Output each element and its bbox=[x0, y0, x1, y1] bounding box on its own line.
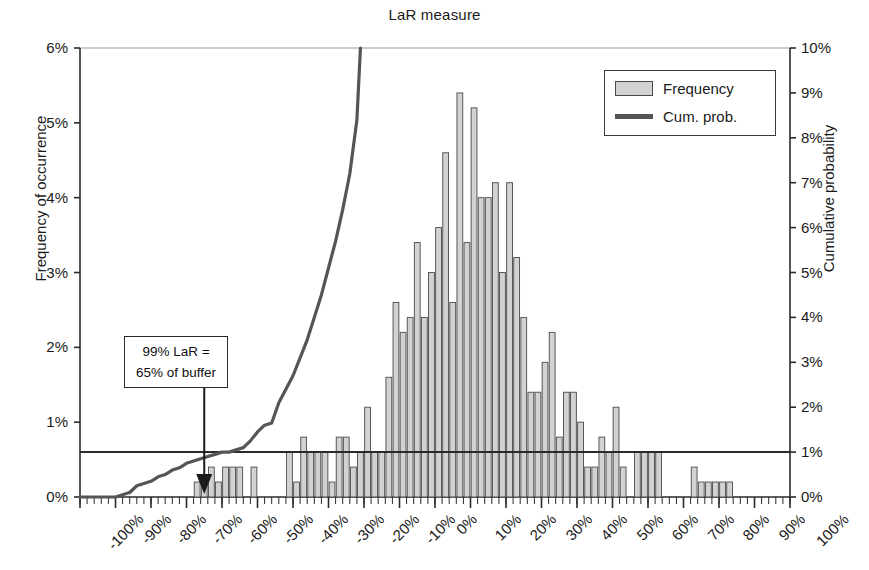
histogram-bar bbox=[216, 482, 222, 497]
histogram-bar bbox=[372, 452, 378, 497]
histogram-bar bbox=[379, 452, 385, 497]
lar-annotation-line-1: 99% LaR = bbox=[125, 342, 227, 363]
histogram-bar bbox=[492, 183, 498, 497]
legend-bar-swatch-icon bbox=[615, 81, 653, 96]
histogram-bar bbox=[549, 332, 555, 497]
histogram-bar bbox=[223, 467, 229, 497]
histogram-bar bbox=[634, 452, 640, 497]
histogram-bar bbox=[350, 467, 356, 497]
histogram-bar bbox=[507, 183, 513, 497]
histogram-bar bbox=[457, 93, 463, 497]
histogram-bar bbox=[656, 452, 662, 497]
histogram-bar bbox=[727, 482, 733, 497]
histogram-bar bbox=[606, 452, 612, 497]
chart-container: LaR measure Frequency of occurrence Cumu… bbox=[0, 0, 869, 570]
histogram-bar bbox=[393, 302, 399, 497]
histogram-bar bbox=[649, 452, 655, 497]
histogram-bar bbox=[386, 377, 392, 497]
histogram-bar bbox=[464, 243, 470, 497]
histogram-bar bbox=[705, 482, 711, 497]
histogram-bar bbox=[563, 392, 569, 497]
lar-annotation-box: 99% LaR = 65% of buffer bbox=[124, 336, 228, 388]
histogram-bar bbox=[585, 467, 591, 497]
legend-label-frequency: Frequency bbox=[663, 80, 734, 97]
histogram-bar bbox=[329, 482, 335, 497]
histogram-bar bbox=[450, 302, 456, 497]
histogram-bar bbox=[599, 437, 605, 497]
histogram-bar bbox=[691, 467, 697, 497]
histogram-bar bbox=[471, 108, 477, 497]
histogram-bar bbox=[414, 243, 420, 497]
legend-item-frequency: Frequency bbox=[615, 77, 734, 99]
legend-item-cum-prob: Cum. prob. bbox=[615, 105, 737, 127]
histogram-bar bbox=[720, 482, 726, 497]
chart-legend: Frequency Cum. prob. bbox=[604, 70, 776, 136]
histogram-bar bbox=[620, 467, 626, 497]
histogram-bar bbox=[322, 452, 328, 497]
histogram-bar bbox=[343, 437, 349, 497]
histogram-bar bbox=[421, 317, 427, 497]
histogram-bar bbox=[535, 392, 541, 497]
histogram-bar bbox=[315, 452, 321, 497]
histogram-bar bbox=[578, 422, 584, 497]
lar-annotation-line-2: 65% of buffer bbox=[125, 363, 227, 384]
histogram-bar bbox=[429, 273, 435, 498]
histogram-bar bbox=[301, 437, 307, 497]
histogram-bar bbox=[500, 273, 506, 498]
cumulative-probability-line bbox=[80, 48, 360, 497]
histogram-bar bbox=[358, 452, 364, 497]
histogram-bar bbox=[230, 467, 236, 497]
histogram-bar bbox=[698, 482, 704, 497]
histogram-bar bbox=[308, 452, 314, 497]
histogram-bar bbox=[400, 332, 406, 497]
histogram-bar bbox=[251, 467, 257, 497]
histogram-bar bbox=[294, 482, 300, 497]
histogram-bar bbox=[436, 228, 442, 497]
histogram-bar bbox=[407, 317, 413, 497]
histogram-bar bbox=[521, 317, 527, 497]
histogram-bar bbox=[336, 437, 342, 497]
histogram-bar bbox=[642, 452, 648, 497]
histogram-bar bbox=[287, 452, 293, 497]
histogram-bar bbox=[571, 392, 577, 497]
histogram-bar bbox=[556, 437, 562, 497]
histogram-bar bbox=[713, 482, 719, 497]
histogram-bar bbox=[208, 467, 214, 497]
histogram-bar bbox=[528, 392, 534, 497]
histogram-bar bbox=[592, 467, 598, 497]
histogram-bar bbox=[542, 362, 548, 497]
legend-label-cum-prob: Cum. prob. bbox=[663, 108, 737, 125]
legend-line-swatch-icon bbox=[615, 114, 653, 119]
histogram-bar bbox=[514, 258, 520, 497]
histogram-bar bbox=[194, 482, 200, 497]
histogram-bar bbox=[443, 153, 449, 497]
histogram-bar bbox=[237, 467, 243, 497]
